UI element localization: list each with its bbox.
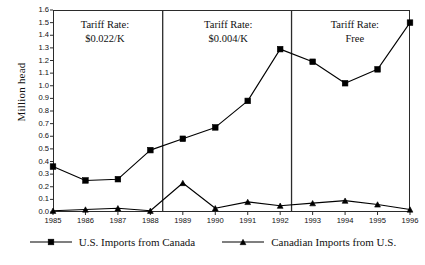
y-axis-tick-label: 0.3 — [19, 170, 49, 178]
legend-item-1[interactable]: U.S. Imports from Canada — [29, 236, 195, 248]
legend-item-2[interactable]: Canadian Imports from U.S. — [221, 236, 396, 248]
y-axis-tick-label: 1.0 — [19, 82, 49, 90]
y-axis-tick-label: 0.9 — [19, 94, 49, 102]
data-point-marker-square — [48, 239, 54, 245]
y-axis-tick-label: 0.8 — [19, 107, 49, 115]
legend-marker-square-icon — [29, 236, 73, 248]
y-axis-tick-label: 1.2 — [19, 57, 49, 65]
x-axis-tick-label: 1996 — [390, 216, 425, 225]
annotation-line-1: Tariff Rate: — [204, 19, 252, 30]
legend-marker-triangle-icon — [221, 236, 265, 248]
y-axis-tick-label: 0.2 — [19, 183, 49, 191]
y-axis-tick-label: 1.1 — [19, 69, 49, 77]
tariff-rate-annotation-1: Tariff Rate:$0.022/K — [35, 18, 175, 46]
tariff-rate-annotation-3: Tariff Rate:Free — [285, 18, 425, 46]
chart-legend: U.S. Imports from CanadaCanadian Imports… — [0, 236, 425, 248]
chart-figure: Million head 1.61.51.41.31.21.11.00.90.8… — [0, 0, 425, 265]
annotation-line-2: Free — [285, 32, 425, 46]
legend-label: Canadian Imports from U.S. — [271, 236, 396, 248]
y-axis-tick-label: 0.7 — [19, 120, 49, 128]
y-axis-tick-label: 0.5 — [19, 145, 49, 153]
annotation-line-1: Tariff Rate: — [81, 19, 129, 30]
annotation-line-1: Tariff Rate: — [331, 19, 379, 30]
annotation-line-2: $0.022/K — [35, 32, 175, 46]
legend-label: U.S. Imports from Canada — [79, 236, 195, 248]
annotation-line-2: $0.004/K — [158, 32, 298, 46]
y-axis-tick-label: 0.0 — [19, 208, 49, 216]
y-axis-tick-label: 0.4 — [19, 158, 49, 166]
y-axis-tick-label: 0.6 — [19, 132, 49, 140]
y-axis-title: Million head — [15, 37, 27, 147]
y-axis-tick-label: 1.6 — [19, 6, 49, 14]
tariff-rate-annotation-2: Tariff Rate:$0.004/K — [158, 18, 298, 46]
y-axis-tick-label: 0.1 — [19, 195, 49, 203]
